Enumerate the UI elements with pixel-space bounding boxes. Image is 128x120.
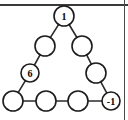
node-circle xyxy=(3,91,23,111)
graph-node[interactable]: -1 xyxy=(102,92,120,110)
graph-edge xyxy=(100,81,107,94)
node-label: -1 xyxy=(107,96,115,107)
graph-node[interactable] xyxy=(68,91,88,111)
node-circle xyxy=(72,36,92,56)
graph-node[interactable] xyxy=(72,36,92,56)
figure-container: 16-1 xyxy=(0,0,128,120)
graph-edge xyxy=(86,54,92,65)
graph-edge xyxy=(34,54,41,66)
graph-node[interactable]: 6 xyxy=(21,64,39,82)
node-circle xyxy=(35,36,55,56)
node-circle xyxy=(68,91,88,111)
graph-edge xyxy=(18,80,26,93)
graph-edge xyxy=(50,24,59,39)
node-label: 1 xyxy=(62,11,67,22)
node-circle xyxy=(86,63,106,83)
graph-node[interactable] xyxy=(3,91,23,111)
graph-node[interactable]: 1 xyxy=(54,6,74,26)
graph-node[interactable] xyxy=(86,63,106,83)
graph-edge xyxy=(69,24,78,39)
triangle-graph-diagram: 16-1 xyxy=(0,0,128,120)
graph-node[interactable] xyxy=(35,36,55,56)
nodes-group: 16-1 xyxy=(3,6,120,111)
graph-node[interactable] xyxy=(36,91,56,111)
node-circle xyxy=(36,91,56,111)
node-label: 6 xyxy=(28,68,33,79)
edges-group xyxy=(18,24,108,101)
